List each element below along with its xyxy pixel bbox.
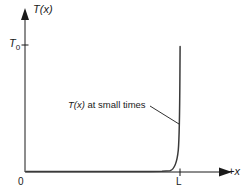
y-tick-label-t0: T0 [9,38,20,52]
x-axis-label: +x [228,166,240,177]
plot-canvas [0,0,246,196]
annotation-leader-line [150,106,179,124]
y-axis-arrow-icon [21,8,29,20]
y-tick-label-t0-base: T [9,37,16,49]
y-axis-label: T(x) [33,4,53,15]
curve-annotation-text: at small times [85,99,146,110]
y-tick-label-t0-subscript: 0 [16,43,20,52]
origin-label: 0 [18,177,24,187]
x-tick-label-l: L [176,177,182,187]
figure-container: T(x) T0 0 L +x T(x) at small times [0,0,246,196]
curve-annotation: T(x) at small times [68,100,146,110]
curve-annotation-italic: T(x) [68,99,85,110]
